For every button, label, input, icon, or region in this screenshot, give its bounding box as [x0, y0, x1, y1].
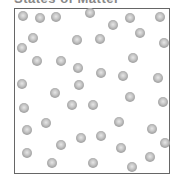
- gas-particle-icon: [72, 35, 82, 45]
- gas-particle-icon: [56, 140, 66, 150]
- gas-particle-icon: [56, 56, 66, 66]
- gas-particle-icon: [28, 33, 38, 43]
- gas-particle-icon: [88, 158, 98, 168]
- gas-particle-icon: [19, 103, 29, 113]
- gas-particle-icon: [73, 63, 83, 73]
- gas-particle-icon: [47, 158, 57, 168]
- gas-container-box: [14, 8, 170, 174]
- gas-particle-icon: [85, 8, 95, 18]
- gas-particle-icon: [145, 152, 155, 162]
- gas-particle-icon: [17, 43, 27, 53]
- gas-particle-icon: [153, 73, 163, 83]
- gas-particle-icon: [96, 68, 106, 78]
- gas-particle-icon: [159, 38, 169, 48]
- gas-particle-icon: [116, 143, 126, 153]
- gas-particle-icon: [155, 12, 165, 22]
- gas-particle-icon: [17, 79, 27, 89]
- gas-particle-icon: [35, 13, 45, 23]
- gas-particle-icon: [96, 131, 106, 141]
- gas-particle-icon: [50, 88, 60, 98]
- gas-particle-icon: [160, 138, 170, 148]
- gas-particle-icon: [118, 71, 128, 81]
- gas-particle-icon: [128, 53, 138, 63]
- gas-particle-icon: [127, 162, 137, 172]
- gas-particle-icon: [147, 124, 157, 134]
- diagram-title: States of Matter: [14, 0, 120, 6]
- gas-particle-icon: [125, 13, 135, 23]
- gas-particle-icon: [158, 97, 168, 107]
- gas-particle-icon: [114, 117, 124, 127]
- gas-particle-icon: [32, 56, 42, 66]
- gas-particle-icon: [76, 133, 86, 143]
- gas-particle-icon: [125, 92, 135, 102]
- gas-particle-icon: [95, 34, 105, 44]
- gas-particle-icon: [135, 28, 145, 38]
- gas-particle-icon: [22, 148, 32, 158]
- gas-particle-icon: [22, 125, 32, 135]
- gas-particle-icon: [18, 11, 28, 21]
- gas-particle-icon: [41, 118, 51, 128]
- gas-particle-icon: [67, 100, 77, 110]
- gas-particle-icon: [51, 12, 61, 22]
- gas-particle-icon: [74, 80, 84, 90]
- gas-particle-icon: [88, 100, 98, 110]
- gas-particle-icon: [108, 20, 118, 30]
